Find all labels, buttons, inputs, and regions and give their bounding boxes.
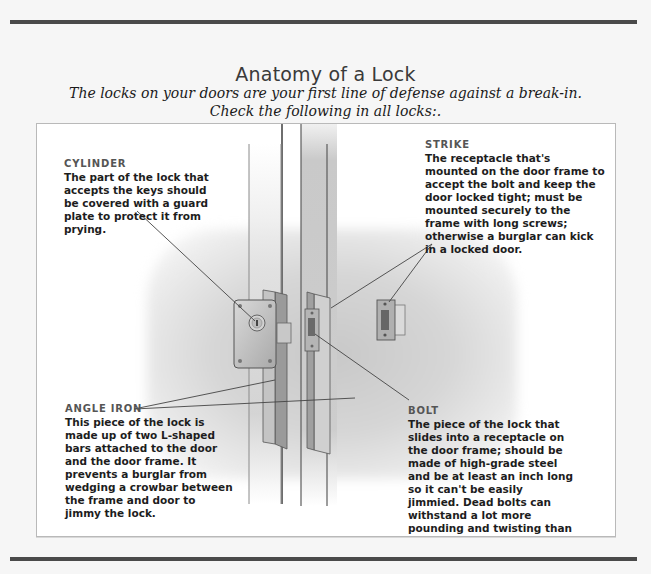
subtitle-line-1: The locks on your doors are your first l…: [0, 84, 651, 102]
subtitle-line-2: Check the following in all locks:.: [0, 102, 651, 120]
callout-angle-iron: ANGLE IRON This piece of the lock is mad…: [65, 402, 235, 520]
illustration-panel: CYLINDER The part of the lock that accep…: [36, 123, 616, 537]
page-title: Anatomy of a Lock: [0, 63, 651, 85]
callout-strike-heading: STRIKE: [425, 138, 605, 151]
strike-plate-mounted: [305, 309, 319, 351]
callout-cylinder: CYLINDER The part of the lock that accep…: [64, 157, 214, 236]
strike-plate-detail: [377, 300, 405, 340]
callout-bolt-heading: BOLT: [408, 404, 576, 417]
top-rule: [10, 20, 637, 24]
callout-bolt-body: The piece of the lock that slides into a…: [408, 418, 576, 537]
callout-strike-body: The receptacle that's mounted on the doo…: [425, 152, 605, 256]
subtitle: The locks on your doors are your first l…: [0, 84, 651, 120]
callout-bolt: BOLT The piece of the lock that slides i…: [408, 404, 576, 537]
callout-strike: STRIKE The receptacle that's mounted on …: [425, 138, 605, 256]
callout-cylinder-body: The part of the lock that accepts the ke…: [64, 171, 214, 236]
callout-angle-iron-body: This piece of the lock is made up of two…: [65, 416, 235, 520]
lock-body: [234, 300, 276, 368]
callout-cylinder-heading: CYLINDER: [64, 157, 214, 170]
callout-angle-iron-heading: ANGLE IRON: [65, 402, 235, 415]
bolt-shape: [277, 323, 291, 343]
bottom-rule: [10, 557, 637, 561]
